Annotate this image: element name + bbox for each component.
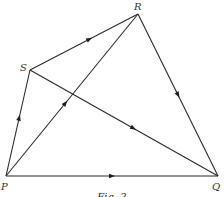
arrowhead-icon xyxy=(86,38,92,43)
edge-P-R xyxy=(6,14,138,176)
arrowhead-icon xyxy=(109,174,115,179)
figure-caption: Fig. 2 xyxy=(96,191,126,197)
edge-S-R xyxy=(30,14,138,70)
vertex-label-R: R xyxy=(133,1,142,12)
directed-graph-figure: PQRS Fig. 2 xyxy=(0,0,224,197)
edges-group xyxy=(6,14,218,176)
edge-P-S xyxy=(6,70,30,176)
vertex-label-S: S xyxy=(20,62,27,73)
edge-S-Q xyxy=(30,70,218,176)
vertex-labels-group: PQRS xyxy=(0,1,220,192)
vertex-label-P: P xyxy=(0,181,8,192)
arrowhead-icon xyxy=(130,125,136,130)
arrowhead-icon xyxy=(175,91,180,97)
vertex-label-Q: Q xyxy=(212,181,220,192)
